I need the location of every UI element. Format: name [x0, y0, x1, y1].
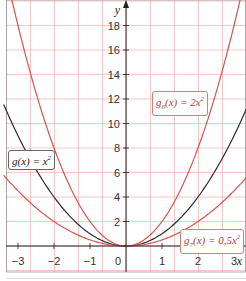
x-axis-name: x — [236, 254, 243, 268]
y-tick-label: 6 — [114, 167, 120, 179]
curve-1 — [4, 0, 246, 246]
y-axis-name: y — [114, 3, 121, 17]
y-tick-label: 10 — [108, 118, 120, 130]
bottom-rule — [6, 278, 246, 279]
x-tick-label: 2 — [195, 255, 201, 267]
y-tick-label: 16 — [108, 44, 120, 56]
curve-0 — [4, 104, 246, 246]
x-tick-label: −2 — [48, 255, 61, 267]
y-tick-label: 18 — [108, 20, 120, 32]
label-g6: g6(x) = 2x2 — [152, 91, 208, 116]
x-tick-label: 1 — [159, 255, 165, 267]
label-g: g(x) = x2 — [8, 150, 55, 170]
x-tick-label: −3 — [12, 255, 25, 267]
y-tick-label: 2 — [114, 216, 120, 228]
label-g7: g7(x) = 0,5x2 — [180, 229, 244, 254]
y-tick-label: 14 — [108, 69, 120, 81]
x-tick-label: 0 — [115, 255, 121, 267]
y-tick-label: 4 — [114, 191, 120, 203]
y-tick-label: 8 — [114, 142, 120, 154]
x-tick-label: −1 — [84, 255, 97, 267]
y-tick-label: 12 — [108, 93, 120, 105]
curves — [4, 0, 246, 246]
